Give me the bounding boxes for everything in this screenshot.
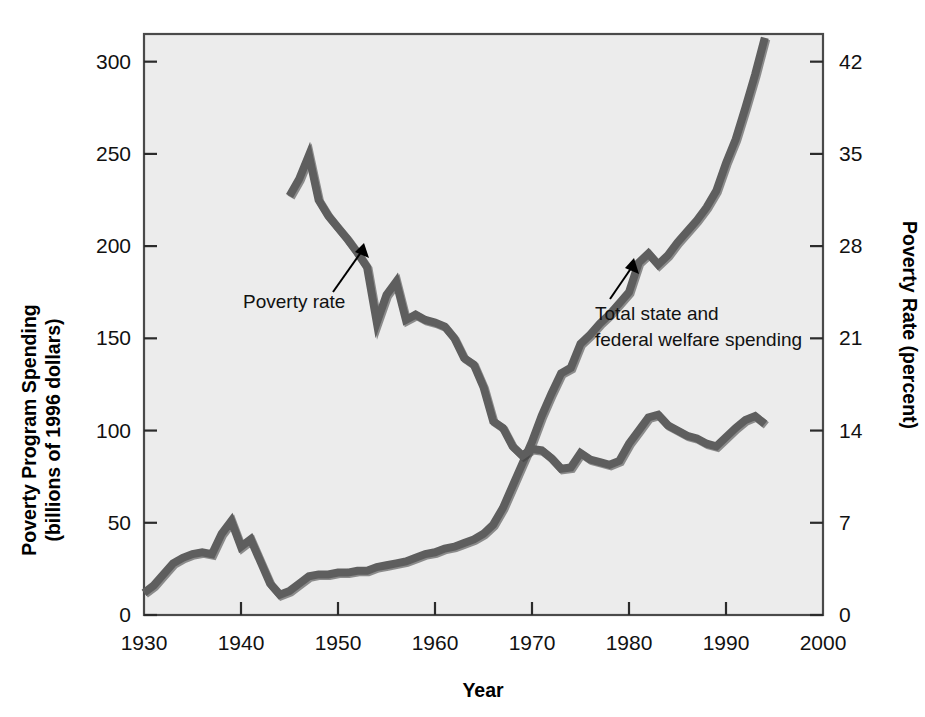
right-tick-label: 28 bbox=[839, 234, 862, 257]
left-tick-label: 200 bbox=[96, 234, 131, 257]
bottom-tick-label: 1940 bbox=[218, 631, 265, 654]
bottom-tick-label: 1970 bbox=[509, 631, 556, 654]
annotation-welfare-spending-line1: Total state and bbox=[595, 303, 719, 324]
right-tick-label: 42 bbox=[839, 50, 862, 73]
right-axis-title: Poverty Rate (percent) bbox=[899, 221, 921, 429]
bottom-tick-label: 1980 bbox=[606, 631, 653, 654]
left-tick-label: 50 bbox=[108, 511, 131, 534]
right-tick-label: 7 bbox=[839, 511, 851, 534]
bottom-tick-label: 1930 bbox=[121, 631, 168, 654]
annotation-welfare-spending-line2: federal welfare spending bbox=[595, 329, 802, 350]
bottom-tick-label: 1950 bbox=[315, 631, 362, 654]
left-tick-label: 300 bbox=[96, 50, 131, 73]
poverty-chart-figure: 050100150200250300 071421283542 19301940… bbox=[0, 0, 925, 717]
left-tick-label: 0 bbox=[119, 603, 131, 626]
bottom-tick-label: 1990 bbox=[703, 631, 750, 654]
right-tick-label: 35 bbox=[839, 142, 862, 165]
left-tick-label: 250 bbox=[96, 142, 131, 165]
left-tick-label: 100 bbox=[96, 419, 131, 442]
right-tick-label: 0 bbox=[839, 603, 851, 626]
bottom-tick-label: 2000 bbox=[800, 631, 847, 654]
left-axis-title-line1: Poverty Program Spending bbox=[18, 304, 40, 555]
x-axis-title: Year bbox=[462, 679, 504, 701]
bottom-tick-label: 1960 bbox=[412, 631, 459, 654]
right-tick-label: 14 bbox=[839, 419, 863, 442]
plot-area-background bbox=[144, 34, 823, 615]
right-tick-label: 21 bbox=[839, 326, 862, 349]
annotation-poverty-rate-label: Poverty rate bbox=[243, 291, 345, 312]
left-axis-title-line2: (billions of 1996 dollars) bbox=[42, 318, 64, 541]
left-tick-label: 150 bbox=[96, 326, 131, 349]
